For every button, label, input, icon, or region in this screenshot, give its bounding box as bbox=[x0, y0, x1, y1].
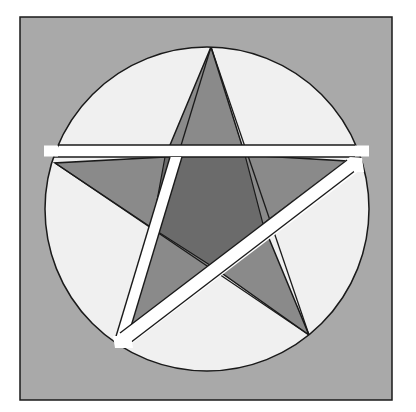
cut-gap-right bbox=[355, 146, 369, 157]
cut-gap-left bbox=[44, 146, 58, 157]
pentagram-diagram bbox=[0, 0, 416, 412]
horizontal-cut-band bbox=[40, 145, 375, 157]
cut-gap-bottom bbox=[113, 336, 133, 348]
